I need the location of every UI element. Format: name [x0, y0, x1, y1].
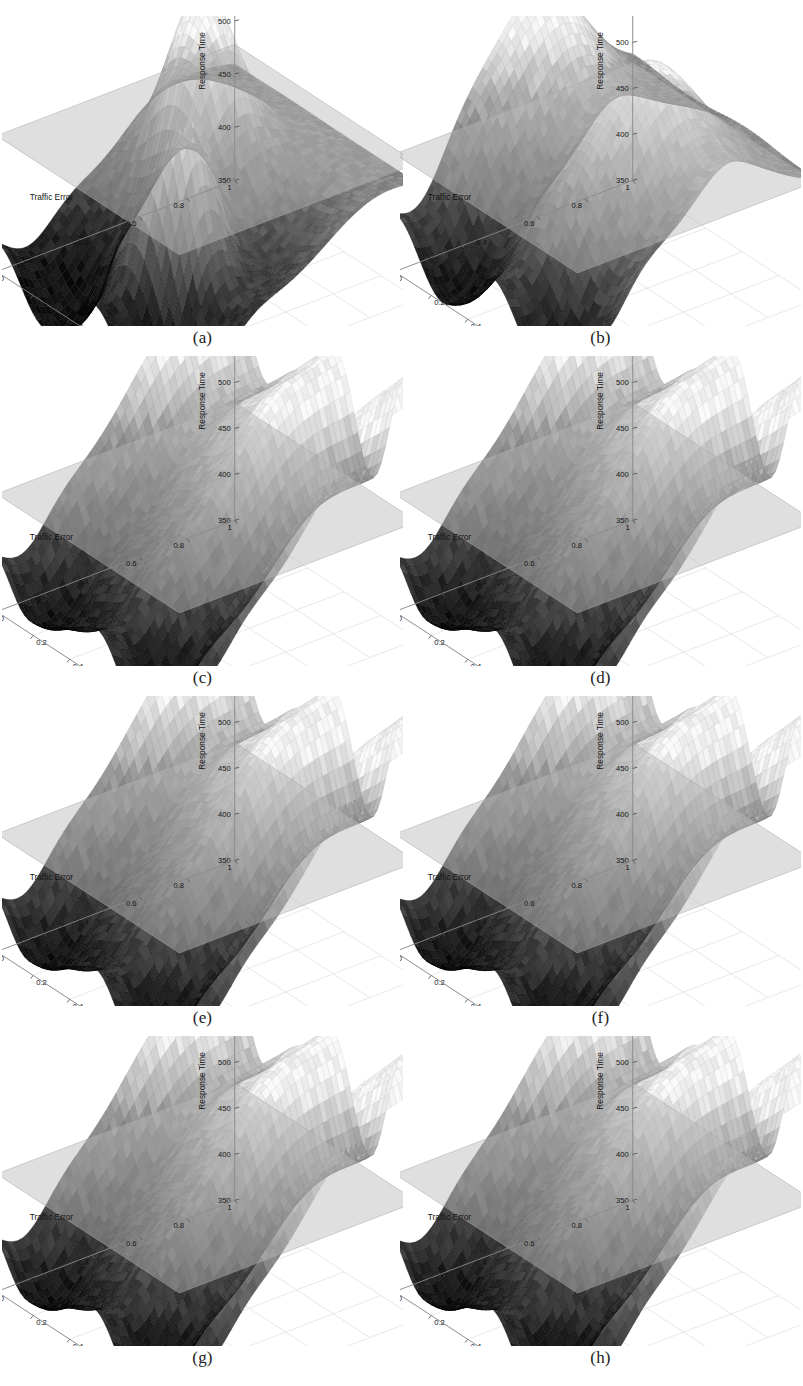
- x-axis-label: Traffic Error: [30, 1212, 74, 1222]
- z-tick-label: 500: [218, 718, 231, 727]
- x-axis-label: Traffic Error: [428, 192, 472, 202]
- surface-plot-f: 35040045050055060010.80.60.40.20Traffic …: [400, 696, 801, 1006]
- panel-g: 35040045050055060010.80.60.40.20Traffic …: [2, 1036, 403, 1382]
- panel-caption-b: (b): [400, 328, 801, 348]
- z-tick-label: 400: [218, 810, 231, 819]
- x-tick-label: 0.6: [126, 1239, 137, 1248]
- x-tick-label: 1: [227, 863, 231, 872]
- z-axis-label: Response Time: [197, 372, 207, 430]
- x-tick-label: 0.2: [31, 256, 42, 265]
- z-tick-label: 400: [616, 810, 629, 819]
- y-tick-label: 0.2: [434, 638, 445, 647]
- x-tick-label: 1: [625, 863, 629, 872]
- x-axis-label: Traffic Error: [30, 872, 74, 882]
- panel-e: 35040045050055060010.80.60.40.20Traffic …: [2, 696, 403, 1042]
- x-tick-label: 0.2: [429, 596, 440, 605]
- plot-area-a: 35040045050055010.80.60.40.20Traffic Err…: [2, 16, 403, 326]
- figure-multi-panel-surface-plots: 35040045050055010.80.60.40.20Traffic Err…: [0, 0, 803, 1386]
- z-tick-label: 400: [218, 1150, 231, 1159]
- x-tick-label: 0.8: [572, 1221, 583, 1230]
- z-axis-label: Response Time: [595, 372, 605, 430]
- plot-area-b: 35040045050055060010.80.60.40.20Traffic …: [400, 16, 801, 326]
- surface-plot-c: 35040045050055060010.80.60.40.20Traffic …: [2, 356, 403, 666]
- y-tick-label: 0: [400, 614, 402, 623]
- z-tick-label: 500: [218, 1058, 231, 1067]
- z-tick-label: 500: [616, 38, 629, 47]
- z-axis-label: Response Time: [595, 32, 605, 90]
- panel-b: 35040045050055060010.80.60.40.20Traffic …: [400, 16, 801, 362]
- x-tick-label: 0.4: [476, 1258, 487, 1267]
- z-tick-label: 400: [218, 123, 231, 132]
- y-tick-label: 0: [2, 1294, 4, 1303]
- x-tick-label: 0.6: [524, 559, 535, 568]
- panel-c: 35040045050055060010.80.60.40.20Traffic …: [2, 356, 403, 702]
- x-tick-label: 1: [227, 183, 231, 192]
- x-tick-label: 0.2: [31, 596, 42, 605]
- surface-plot-d: 35040045050055060010.80.60.40.20Traffic …: [400, 356, 801, 666]
- x-tick-label: 0.2: [429, 256, 440, 265]
- x-tick-label: 1: [227, 523, 231, 532]
- z-tick-label: 450: [218, 424, 231, 433]
- panel-caption-h: (h): [400, 1348, 801, 1368]
- z-axis-label: Response Time: [595, 1052, 605, 1110]
- x-tick-label: 0.4: [476, 578, 487, 587]
- panel-a: 35040045050055010.80.60.40.20Traffic Err…: [2, 16, 403, 362]
- x-tick-label: 0.8: [174, 881, 185, 890]
- y-tick-label: 0.4: [73, 662, 84, 666]
- x-tick-label: 0.4: [476, 918, 487, 927]
- z-tick-label: 500: [616, 378, 629, 387]
- x-tick-label: 0.6: [126, 559, 137, 568]
- x-tick-label: 0.6: [524, 219, 535, 228]
- x-tick-label: 0.8: [174, 1221, 185, 1230]
- x-axis-label: Traffic Error: [30, 192, 74, 202]
- x-tick-label: 0.4: [78, 238, 89, 247]
- x-tick-label: 0.2: [31, 1276, 42, 1285]
- x-tick-label: 1: [625, 183, 629, 192]
- z-tick-label: 450: [616, 764, 629, 773]
- x-tick-label: 1: [625, 523, 629, 532]
- x-tick-label: 0.8: [174, 201, 185, 210]
- z-tick-label: 450: [616, 424, 629, 433]
- x-tick-label: 0.4: [78, 918, 89, 927]
- x-tick-label: 0.8: [572, 881, 583, 890]
- panel-caption-g: (g): [2, 1348, 403, 1368]
- y-tick-label: 0: [2, 274, 4, 283]
- plot-area-d: 35040045050055060010.80.60.40.20Traffic …: [400, 356, 801, 666]
- surface-plot-g: 35040045050055060010.80.60.40.20Traffic …: [2, 1036, 403, 1346]
- plot-area-e: 35040045050055060010.80.60.40.20Traffic …: [2, 696, 403, 1006]
- surface-plot-h: 35040045050055060010.80.60.40.20Traffic …: [400, 1036, 801, 1346]
- y-tick-label: 0.4: [471, 662, 482, 666]
- y-tick-label: 0.2: [36, 978, 47, 987]
- surface-plot-b: 35040045050055060010.80.60.40.20Traffic …: [400, 16, 801, 326]
- x-tick-label: 0.2: [429, 1276, 440, 1285]
- z-tick-label: 400: [616, 130, 629, 139]
- z-tick-label: 500: [218, 378, 231, 387]
- x-tick-label: 0.8: [572, 201, 583, 210]
- y-tick-label: 0.4: [73, 1342, 84, 1346]
- z-tick-label: 450: [616, 1104, 629, 1113]
- z-tick-label: 450: [616, 84, 629, 93]
- panel-caption-d: (d): [400, 668, 801, 688]
- plot-area-f: 35040045050055060010.80.60.40.20Traffic …: [400, 696, 801, 1006]
- y-tick-label: 0.2: [36, 298, 47, 307]
- y-tick-label: 0.2: [434, 1318, 445, 1327]
- y-tick-label: 0.4: [73, 322, 84, 326]
- x-tick-label: 0.2: [31, 936, 42, 945]
- plot-area-g: 35040045050055060010.80.60.40.20Traffic …: [2, 1036, 403, 1346]
- x-axis-label: Traffic Error: [428, 872, 472, 882]
- y-tick-label: 0: [400, 274, 402, 283]
- y-tick-label: 0.4: [471, 1002, 482, 1006]
- z-axis-label: Response Time: [197, 1052, 207, 1110]
- z-axis-label: Response Time: [197, 712, 207, 770]
- z-tick-label: 400: [616, 470, 629, 479]
- x-tick-label: 0.6: [524, 899, 535, 908]
- x-tick-label: 0.6: [524, 1239, 535, 1248]
- x-tick-label: 1: [227, 1203, 231, 1212]
- y-tick-label: 0: [2, 614, 4, 623]
- y-tick-label: 0.2: [434, 298, 445, 307]
- y-tick-label: 0.4: [471, 322, 482, 326]
- x-tick-label: 0.4: [78, 1258, 89, 1267]
- panel-caption-e: (e): [2, 1008, 403, 1028]
- x-tick-label: 0.6: [126, 219, 137, 228]
- x-axis-label: Traffic Error: [30, 532, 74, 542]
